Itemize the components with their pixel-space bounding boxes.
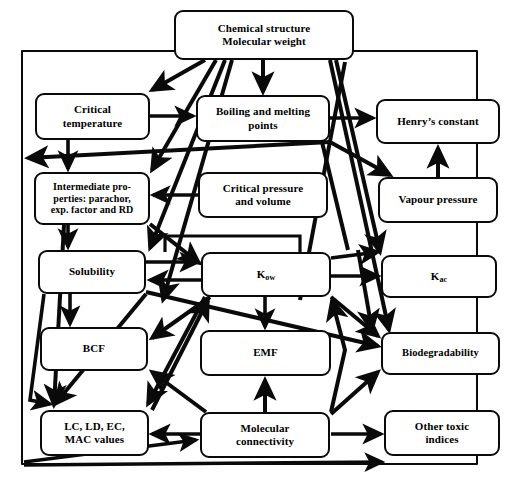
node-label-kow-subscript: ow: [265, 273, 275, 282]
node-label-critical-pressure-volume: Critical pressure and volume: [223, 182, 303, 209]
node-label-chemical-structure: Chemical structure Molecular weight: [218, 22, 310, 49]
node-critical-temperature[interactable]: Critical temperature: [35, 93, 150, 140]
node-molecular-connectivity[interactable]: Molecular connectivity: [200, 412, 330, 458]
node-label-boiling-melting-points: Boiling and melting points: [216, 105, 310, 132]
node-label-critical-temperature: Critical temperature: [63, 103, 123, 130]
node-solubility[interactable]: Solubility: [38, 250, 146, 294]
node-bcf[interactable]: BCF: [40, 327, 148, 371]
node-vapour-pressure[interactable]: Vapour pressure: [378, 177, 498, 223]
node-label-emf: EMF: [253, 346, 278, 359]
node-label-bcf: BCF: [83, 342, 105, 355]
node-label-henrys-constant: Henry’s constant: [397, 115, 479, 128]
node-label-vapour-pressure: Vapour pressure: [398, 193, 477, 206]
node-kow[interactable]: Kow: [201, 252, 331, 297]
node-kac[interactable]: Kac: [381, 255, 497, 298]
node-label-solubility: Solubility: [69, 265, 115, 278]
node-label-intermediate-properties: Intermediate pro- perties: parachor, exp…: [51, 181, 134, 216]
node-emf[interactable]: EMF: [200, 330, 331, 376]
node-label-kow: Kow: [257, 268, 276, 281]
node-label-lc-ld-ec-mac: LC, LD, EC, MAC values: [64, 420, 125, 447]
node-label-biodegradability: Biodegradability: [402, 347, 479, 360]
node-chemical-structure[interactable]: Chemical structure Molecular weight: [174, 10, 354, 60]
flowchart-diagram: Chemical structure Molecular weight Crit…: [0, 0, 521, 490]
node-intermediate-properties[interactable]: Intermediate pro- perties: parachor, exp…: [34, 172, 150, 225]
node-label-molecular-connectivity: Molecular connectivity: [236, 422, 294, 449]
node-biodegradability[interactable]: Biodegradability: [381, 332, 500, 375]
node-boiling-melting-points[interactable]: Boiling and melting points: [196, 95, 330, 142]
node-label-other-toxic-indices: Other toxic indices: [415, 420, 469, 447]
node-henrys-constant[interactable]: Henry’s constant: [376, 99, 500, 144]
node-lc-ld-ec-mac[interactable]: LC, LD, EC, MAC values: [40, 410, 149, 456]
node-other-toxic-indices[interactable]: Other toxic indices: [384, 410, 500, 456]
node-label-kac-subscript: ac: [439, 275, 447, 284]
node-critical-pressure-volume[interactable]: Critical pressure and volume: [198, 172, 328, 218]
node-label-kac: Kac: [431, 270, 447, 283]
